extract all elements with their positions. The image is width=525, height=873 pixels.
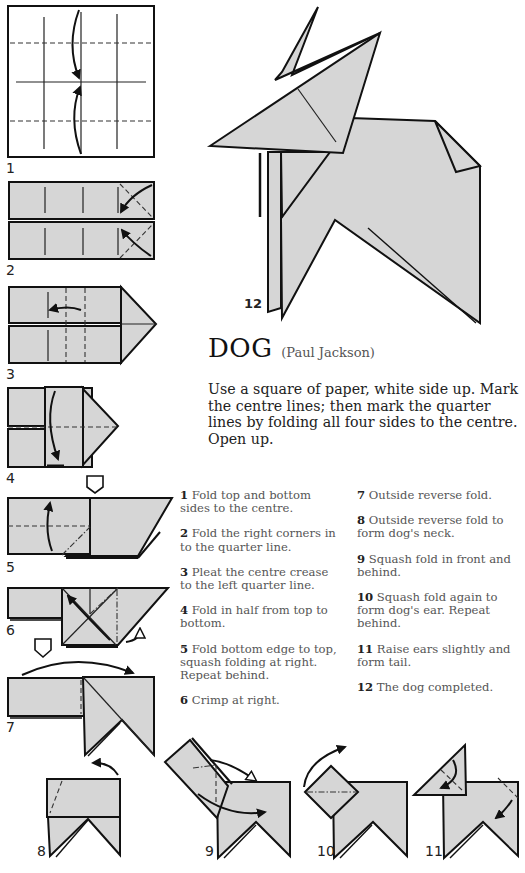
diagram-step-4 xyxy=(8,387,118,467)
arrow-down-icon xyxy=(87,476,103,493)
arrow-down-icon xyxy=(35,639,51,657)
diagram-label-3: 3 xyxy=(6,366,15,382)
instruction-item: 12 The dog completed. xyxy=(357,681,523,694)
diagram-step-6 xyxy=(8,588,168,647)
instruction-item: 9 Squash fold in front and behind. xyxy=(357,553,523,579)
instructions-right-column: 7 Outside reverse fold. 8 Outside revers… xyxy=(357,489,523,706)
diagram-label-2: 2 xyxy=(6,262,15,278)
instruction-item: 2 Fold the right corners in to the quart… xyxy=(180,527,342,553)
diagram-label-1: 1 xyxy=(6,160,15,176)
instruction-item: 6 Crimp at right. xyxy=(180,694,342,707)
diagram-step-1 xyxy=(8,6,154,157)
instruction-item: 1 Fold top and bottom sides to the centr… xyxy=(180,489,342,515)
instruction-item: 11 Raise ears slightly and form tail. xyxy=(357,643,523,669)
diagram-label-9: 9 xyxy=(205,843,214,859)
diagram-label-7: 7 xyxy=(6,719,15,735)
diagram-label-4: 4 xyxy=(6,470,15,486)
diagram-step-12-dog xyxy=(210,7,480,323)
intro-paragraph: Use a square of paper, white side up. Ma… xyxy=(208,381,523,447)
instruction-item: 8 Outside reverse fold to form dog's nec… xyxy=(357,514,523,540)
instruction-item: 4 Fold in half from top to bottom. xyxy=(180,604,342,630)
diagram-label-12: 12 xyxy=(244,296,262,311)
instruction-item: 5 Fold bottom edge to top, squash foldin… xyxy=(180,643,342,683)
diagram-step-8 xyxy=(47,763,120,857)
title-main: DOG xyxy=(208,333,272,363)
instructions-left-column: 1 Fold top and bottom sides to the centr… xyxy=(180,489,342,719)
diagram-label-11: 11 xyxy=(425,843,443,859)
diagram-step-7 xyxy=(8,662,154,756)
diagram-label-5: 5 xyxy=(6,559,15,575)
title-author: (Paul Jackson) xyxy=(281,345,375,360)
diagram-step-3 xyxy=(9,287,156,363)
diagram-label-8: 8 xyxy=(37,843,46,859)
diagram-label-10: 10 xyxy=(317,843,335,859)
instruction-item: 3 Pleat the centre crease to the left qu… xyxy=(180,566,342,592)
diagram-step-11 xyxy=(414,745,518,858)
diagram-step-2 xyxy=(9,182,154,259)
diagram-step-10 xyxy=(304,747,407,858)
instruction-item: 10 Squash fold again to form dog's ear. … xyxy=(357,591,523,631)
diagram-step-9 xyxy=(165,738,290,858)
page-title: DOG (Paul Jackson) xyxy=(208,333,375,363)
instruction-item: 7 Outside reverse fold. xyxy=(357,489,523,502)
diagram-label-6: 6 xyxy=(6,622,15,638)
diagram-step-5 xyxy=(8,498,172,558)
